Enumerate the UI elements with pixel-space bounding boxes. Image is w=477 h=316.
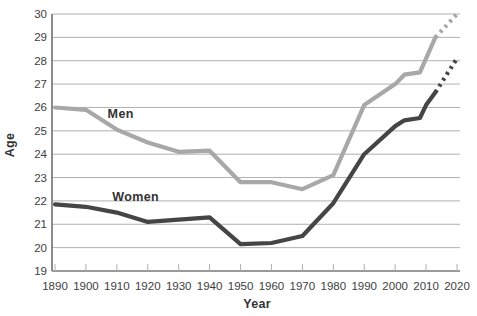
y-tick-label: 22 xyxy=(34,195,47,207)
y-tick-label: 27 xyxy=(34,78,47,90)
x-tick-label: 1900 xyxy=(73,280,99,292)
x-tick-label: 1950 xyxy=(228,280,254,292)
x-tick-label: 1960 xyxy=(259,280,285,292)
y-tick-label: 19 xyxy=(34,265,47,277)
y-tick-label: 24 xyxy=(34,148,47,160)
men-projection-line xyxy=(435,14,457,37)
x-tick-label: 1930 xyxy=(166,280,192,292)
men-series-label: Men xyxy=(108,107,134,121)
x-tick-label: 2020 xyxy=(444,280,470,292)
median-age-line-chart-figure: 1920212223242526272829301890190019101920… xyxy=(0,0,477,316)
line-chart: 1920212223242526272829301890190019101920… xyxy=(0,0,477,316)
y-tick-label: 20 xyxy=(34,242,47,254)
y-tick-label: 25 xyxy=(34,125,47,137)
x-tick-label: 1970 xyxy=(290,280,316,292)
women-projection-line xyxy=(435,58,457,92)
y-tick-label: 30 xyxy=(34,8,47,20)
y-tick-label: 21 xyxy=(34,218,47,230)
y-tick-label: 26 xyxy=(34,101,47,113)
y-axis-title: Age xyxy=(3,133,17,158)
x-tick-label: 1920 xyxy=(135,280,161,292)
x-tick-label: 1980 xyxy=(321,280,347,292)
x-axis-title: Year xyxy=(243,297,271,311)
x-tick-label: 1890 xyxy=(42,280,68,292)
y-tick-label: 29 xyxy=(34,31,47,43)
y-tick-label: 28 xyxy=(34,55,47,67)
x-tick-label: 1940 xyxy=(197,280,223,292)
x-tick-label: 1990 xyxy=(351,280,377,292)
x-tick-label: 2010 xyxy=(413,280,439,292)
x-tick-label: 1910 xyxy=(104,280,130,292)
women-series-label: Women xyxy=(112,190,159,204)
y-tick-label: 23 xyxy=(34,172,47,184)
x-tick-label: 2000 xyxy=(382,280,408,292)
